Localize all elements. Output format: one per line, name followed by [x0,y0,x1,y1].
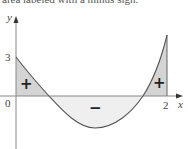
x-tick-2: 2 [163,99,169,111]
x-axis-label: x [177,98,183,110]
area-chart: y 3 0 2 x + − + [0,0,190,149]
plus-sign-left: + [20,75,33,93]
y-tick-3: 3 [5,51,11,63]
y-axis-label: y [6,11,12,23]
x-tick-0: 0 [5,97,11,109]
minus-sign: − [89,99,102,117]
y-axis-arrow-icon [14,16,19,23]
plus-sign-right: + [153,74,166,92]
